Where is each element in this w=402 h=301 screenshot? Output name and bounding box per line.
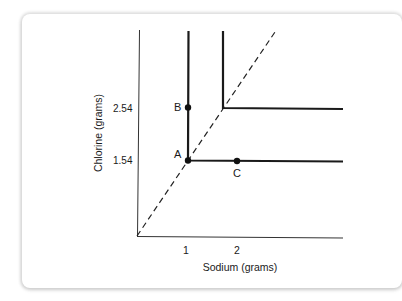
- x-tick-1: 1: [183, 244, 189, 256]
- y-axis: [138, 30, 140, 237]
- x-axis-title: Sodium (grams): [203, 261, 278, 273]
- y-tick-low: 1.54: [113, 155, 133, 166]
- point-c-marker: [234, 158, 240, 164]
- y-axis-title: Chlorine (grams): [92, 94, 104, 172]
- x-tick-2: 2: [234, 244, 240, 256]
- point-c-label: C: [233, 167, 241, 179]
- point-a-marker: [185, 157, 191, 163]
- isoquant-lower: [188, 31, 343, 162]
- point-b-marker: [185, 104, 191, 110]
- point-b-label: B: [174, 101, 181, 113]
- isoquant-upper: [223, 31, 343, 109]
- x-axis: [137, 237, 343, 239]
- y-tick-high: 2.54: [113, 103, 133, 114]
- point-a-label: A: [174, 148, 182, 160]
- expansion-path-line: [137, 32, 275, 236]
